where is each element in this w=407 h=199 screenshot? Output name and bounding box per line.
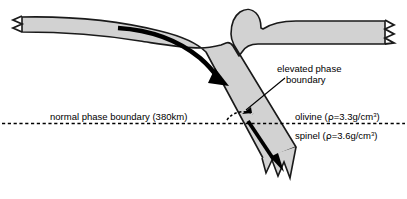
- spinel-label-value: =3.6g/cm: [332, 130, 371, 141]
- olivine-density-label: olivine (ρ=3.3g/cm3): [295, 111, 380, 122]
- elevated-phase-boundary-label-line1: elevated phase: [277, 63, 341, 74]
- elevated-phase-boundary-label-line2: boundary: [286, 74, 326, 85]
- diagram-canvas: normal phase boundary (380km) elevated p…: [0, 0, 407, 199]
- olivine-label-value: =3.3g/cm: [334, 111, 373, 122]
- spinel-label-prefix: spinel (: [295, 130, 326, 141]
- olivine-label-suffix: ): [376, 111, 379, 122]
- spinel-density-label: spinel (ρ=3.6g/cm3): [295, 130, 378, 141]
- left-torn-edge: [13, 16, 22, 32]
- normal-phase-boundary-label: normal phase boundary (380km): [50, 111, 187, 122]
- right-torn-edge: [385, 20, 394, 44]
- spinel-label-suffix: ): [374, 130, 377, 141]
- olivine-label-prefix: olivine (: [295, 111, 329, 122]
- subduction-phase-boundary-diagram: normal phase boundary (380km) elevated p…: [0, 0, 407, 199]
